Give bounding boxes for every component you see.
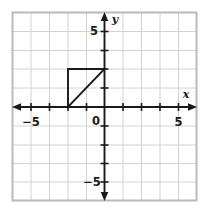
y-tick-label-positive-five: 5	[90, 24, 98, 38]
y-tick-label-negative-five: −5	[83, 175, 101, 189]
x-axis-name-label: x	[182, 88, 190, 101]
coordinate-plane-svg: −5 5 0 5 −5 x y	[0, 0, 208, 216]
origin-label: 0	[92, 114, 100, 128]
x-tick-label-positive-five: 5	[174, 115, 182, 129]
coordinate-plane-figure: −5 5 0 5 −5 x y	[0, 0, 208, 216]
x-tick-label-negative-five: −5	[22, 115, 40, 129]
